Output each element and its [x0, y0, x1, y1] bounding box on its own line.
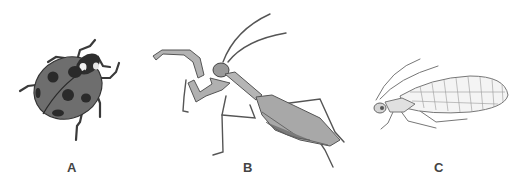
insect-figure: A B C — [0, 0, 524, 186]
mantis-illustration — [153, 14, 344, 167]
panel-label-c: C — [434, 161, 443, 174]
panel-label-a: A — [67, 161, 76, 174]
insect-illustrations — [0, 0, 524, 186]
ladybug-illustration — [20, 40, 119, 140]
lacewing-illustration — [374, 59, 508, 129]
panel-label-b: B — [243, 161, 252, 174]
